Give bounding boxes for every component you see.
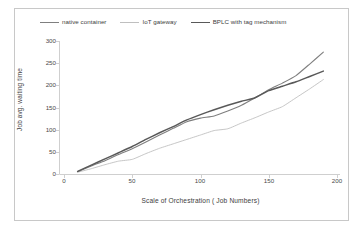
x-axis-tick-marks (65, 175, 338, 179)
series-line-iot-gateway (78, 80, 324, 173)
y-axis-tick-marks (56, 42, 60, 175)
chart-series-group (78, 52, 324, 172)
chart-plot-area (0, 0, 363, 229)
chart-figure: native container IoT gateway BPLC with t… (0, 0, 363, 229)
